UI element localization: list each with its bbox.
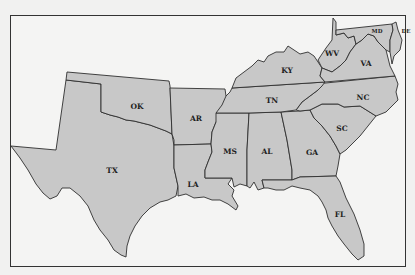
label-md: MD — [372, 28, 383, 34]
label-tn: TN — [266, 96, 279, 105]
label-al: AL — [260, 147, 273, 156]
state-ky[interactable] — [232, 46, 325, 88]
label-nc: NC — [357, 93, 370, 102]
label-va: VA — [359, 59, 371, 68]
label-ok: OK — [130, 102, 144, 111]
label-ar: AR — [189, 114, 203, 123]
label-sc: SC — [336, 124, 347, 133]
label-wv: WV — [324, 49, 339, 58]
label-fl: FL — [335, 210, 346, 219]
southern-states-map: TX OK AR LA MS AL GA FL SC NC TN KY WV V… — [0, 0, 415, 275]
state-fl[interactable] — [262, 176, 364, 260]
label-ky: KY — [281, 66, 293, 75]
label-ga: GA — [306, 148, 318, 157]
label-de: DE — [402, 28, 411, 34]
map-page: TX OK AR LA MS AL GA FL SC NC TN KY WV V… — [0, 0, 415, 275]
label-la: LA — [187, 180, 198, 189]
label-tx: TX — [106, 166, 118, 175]
label-ms: MS — [223, 147, 237, 156]
